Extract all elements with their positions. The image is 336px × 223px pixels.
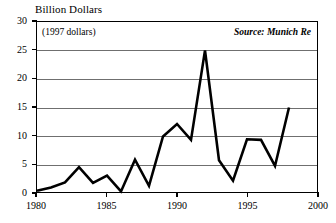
plot-area: (1997 dollars) Source: Munich Re [36,21,318,193]
y-tick-mark [32,78,37,79]
chart-figure: Billion Dollars (1997 dollars) Source: M… [0,0,336,223]
data-line-series [37,22,317,192]
x-tick-label: 1980 [16,201,56,211]
y-tick-mark [32,135,37,136]
y-tick-mark [32,20,37,21]
x-tick-label: 1995 [228,201,268,211]
x-tick-label: 2000 [298,201,336,211]
y-tick-mark [32,164,37,165]
y-tick-label: 30 [0,16,27,26]
y-tick-label: 25 [0,45,27,55]
y-tick-mark [32,49,37,50]
x-tick-mark [317,192,318,197]
x-tick-mark [35,192,36,197]
chart-title: Billion Dollars [35,3,102,16]
y-tick-label: 10 [0,131,27,141]
y-tick-label: 15 [0,102,27,112]
y-tick-label: 0 [0,188,27,198]
x-tick-label: 1985 [87,201,127,211]
x-tick-label: 1990 [157,201,197,211]
y-tick-mark [32,106,37,107]
x-tick-mark [176,192,177,197]
y-tick-label: 20 [0,73,27,83]
y-tick-label: 5 [0,159,27,169]
x-tick-mark [106,192,107,197]
data-line [37,50,289,191]
x-tick-mark [247,192,248,197]
